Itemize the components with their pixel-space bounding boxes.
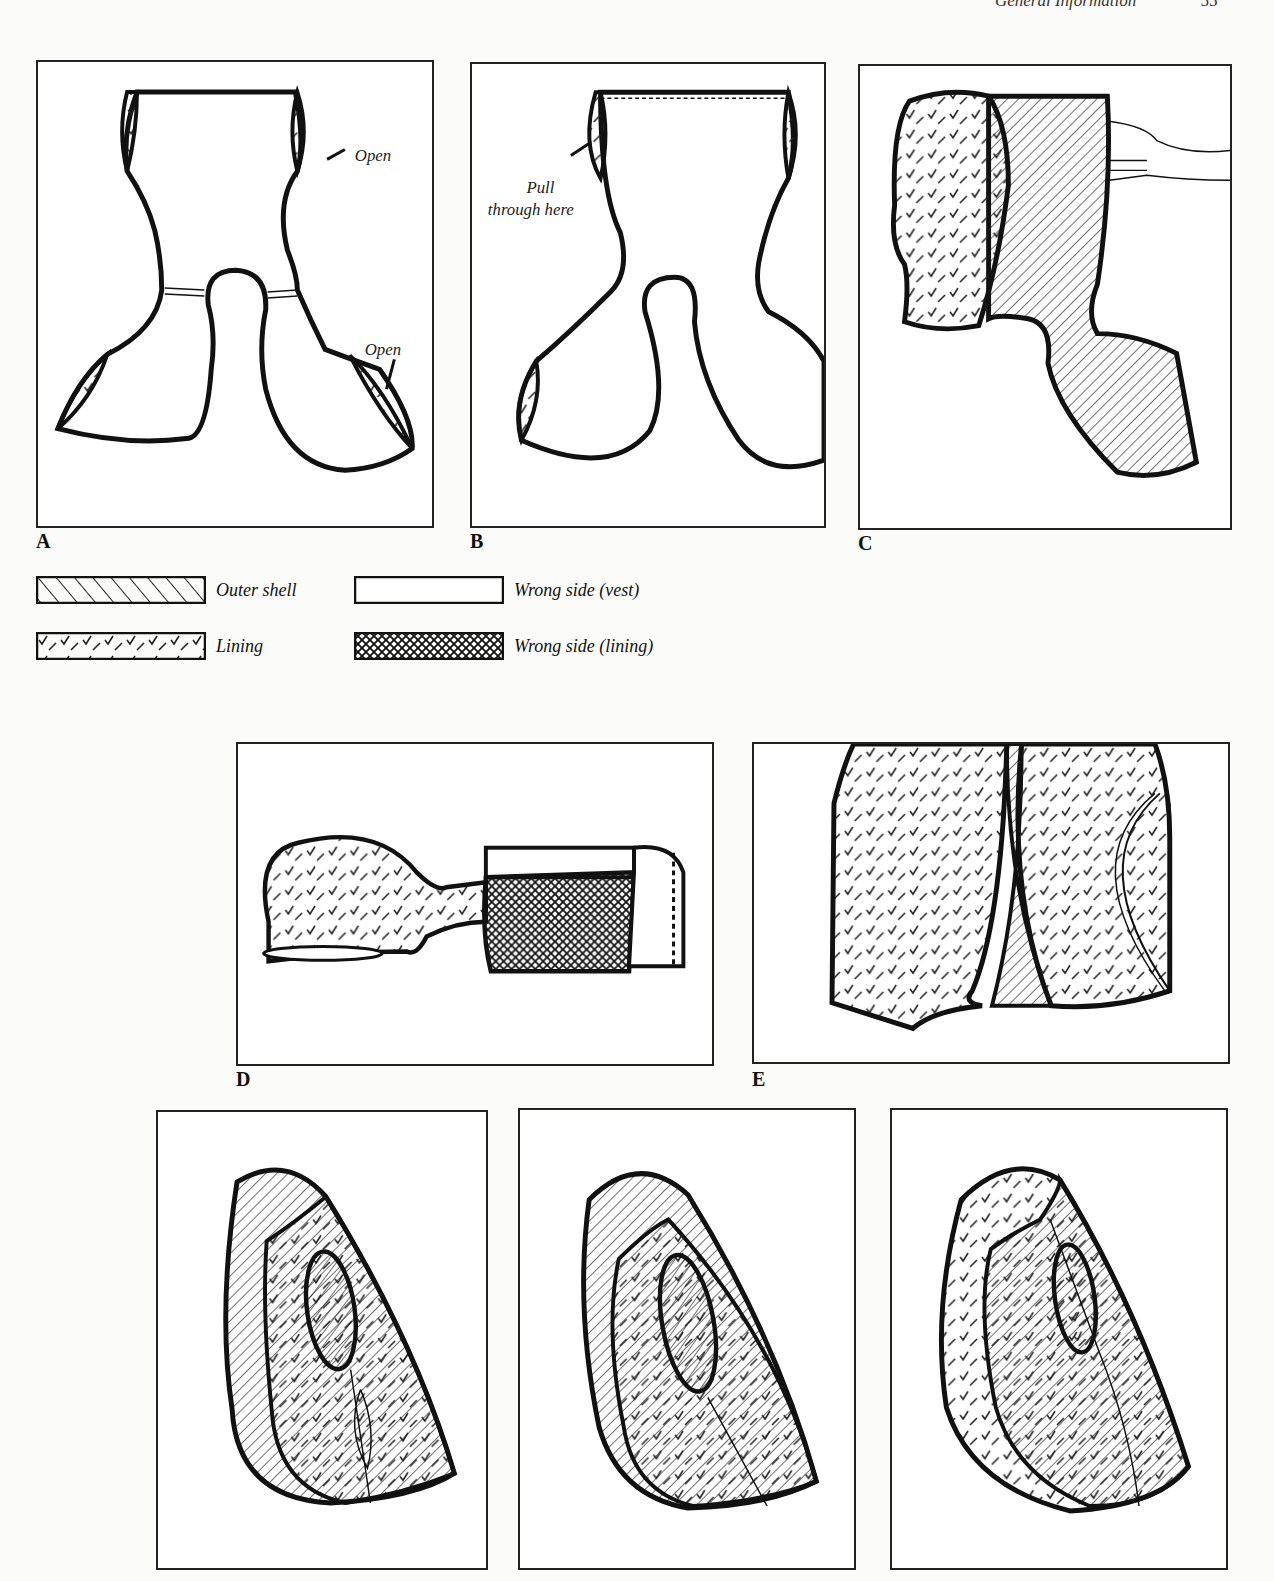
lining-swatch: [36, 632, 206, 660]
figure-panel-h: [890, 1108, 1228, 1570]
legend-lining: Lining: [36, 632, 263, 660]
legend-outer-shell: Outer shell: [36, 576, 297, 604]
wrong-side-vest-swatch: [354, 576, 504, 604]
pull-annotation: Pull: [525, 178, 554, 197]
figure-panel-a: Open Open: [36, 60, 434, 528]
vest-flat-diagram: Open Open: [38, 62, 432, 526]
through-here-annotation: through here: [488, 200, 575, 219]
open-annotation-bottom: Open: [365, 340, 401, 359]
running-header: General Information 55: [995, 0, 1217, 11]
turning-right-side-out-diagram: [860, 66, 1230, 528]
panel-label-a: A: [36, 530, 50, 553]
legend-wrong-side-vest: Wrong side (vest): [354, 576, 639, 604]
lining-pulled-through-diagram: [238, 744, 712, 1064]
vest-front-open-seam-diagram: [158, 1112, 486, 1568]
legend-label: Wrong side (lining): [514, 636, 653, 657]
open-annotation-top: Open: [355, 146, 391, 165]
legend-label: Wrong side (vest): [514, 580, 639, 601]
panel-label-c: C: [858, 532, 872, 555]
outer-shell-swatch: [36, 576, 206, 604]
figure-panel-c: [858, 64, 1232, 530]
legend-label: Lining: [216, 636, 263, 657]
legend-label: Outer shell: [216, 580, 297, 601]
wrong-side-lining-swatch: [354, 632, 504, 660]
vest-hem-stitching-diagram: [754, 744, 1228, 1062]
panel-label-e: E: [752, 1068, 765, 1091]
figure-panel-b: Pull through here: [470, 62, 826, 528]
figure-panel-f: [156, 1110, 488, 1570]
vest-stitched-diagram: Pull through here: [472, 64, 824, 526]
panel-label-d: D: [236, 1068, 250, 1091]
vest-front-stitched-seam-diagram: [520, 1110, 854, 1568]
vest-finished-diagram: [892, 1110, 1226, 1568]
legend-wrong-side-lining: Wrong side (lining): [354, 632, 653, 660]
page-number: 55: [1200, 0, 1217, 10]
figure-panel-d: [236, 742, 714, 1066]
panel-label-b: B: [470, 530, 483, 553]
figure-panel-e: [752, 742, 1230, 1064]
section-title: General Information: [995, 0, 1136, 10]
figure-panel-g: [518, 1108, 856, 1570]
